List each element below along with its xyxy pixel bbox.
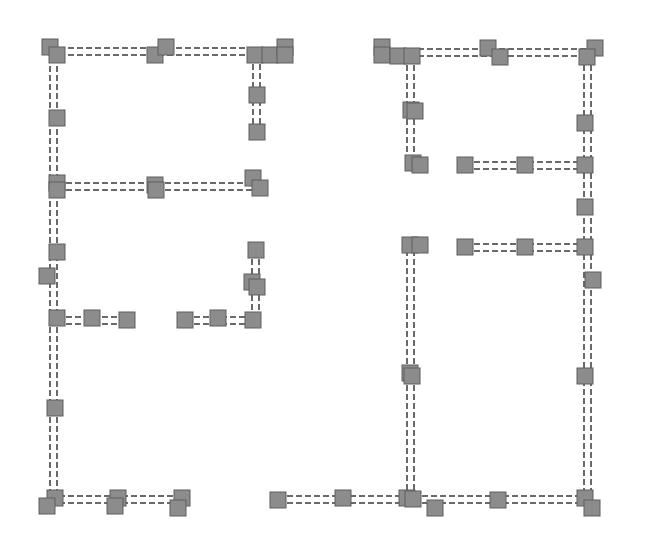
- node-square[interactable]: [249, 87, 265, 103]
- node-square[interactable]: [412, 237, 428, 253]
- node-square[interactable]: [47, 400, 63, 416]
- node-square[interactable]: [158, 39, 174, 55]
- node-square[interactable]: [404, 368, 420, 384]
- node-square[interactable]: [249, 279, 265, 295]
- node-square[interactable]: [584, 500, 600, 516]
- node-square[interactable]: [492, 49, 508, 65]
- node-square[interactable]: [262, 47, 278, 63]
- node-square[interactable]: [49, 244, 65, 260]
- node-square[interactable]: [577, 239, 593, 255]
- node-square[interactable]: [245, 312, 261, 328]
- node-square[interactable]: [490, 492, 506, 508]
- node-square[interactable]: [249, 124, 265, 140]
- node-square[interactable]: [374, 47, 390, 63]
- node-square[interactable]: [39, 498, 55, 514]
- node-square[interactable]: [577, 157, 593, 173]
- node-square[interactable]: [107, 498, 123, 514]
- floor-plan-diagram: [0, 0, 650, 546]
- node-square[interactable]: [39, 268, 55, 284]
- node-square[interactable]: [585, 272, 601, 288]
- node-square[interactable]: [457, 239, 473, 255]
- node-square[interactable]: [49, 182, 65, 198]
- node-square[interactable]: [335, 490, 351, 506]
- node-square[interactable]: [457, 157, 473, 173]
- node-square[interactable]: [577, 368, 593, 384]
- node-square[interactable]: [170, 500, 186, 516]
- node-square[interactable]: [405, 491, 421, 507]
- node-square[interactable]: [577, 199, 593, 215]
- node-square[interactable]: [252, 180, 268, 196]
- node-square[interactable]: [407, 103, 423, 119]
- node-square[interactable]: [579, 49, 595, 65]
- node-square[interactable]: [49, 310, 65, 326]
- node-square[interactable]: [210, 310, 226, 326]
- node-square[interactable]: [412, 157, 428, 173]
- node-square[interactable]: [148, 182, 164, 198]
- node-square[interactable]: [517, 239, 533, 255]
- node-square[interactable]: [517, 157, 533, 173]
- node-square[interactable]: [248, 242, 264, 258]
- node-square[interactable]: [49, 47, 65, 63]
- node-square[interactable]: [247, 47, 263, 63]
- node-square[interactable]: [49, 110, 65, 126]
- node-square[interactable]: [177, 312, 193, 328]
- background: [0, 0, 650, 546]
- node-square[interactable]: [427, 500, 443, 516]
- node-square[interactable]: [577, 115, 593, 131]
- node-square[interactable]: [270, 492, 286, 508]
- node-square[interactable]: [277, 47, 293, 63]
- node-square[interactable]: [84, 310, 100, 326]
- node-square[interactable]: [404, 48, 420, 64]
- node-square[interactable]: [119, 312, 135, 328]
